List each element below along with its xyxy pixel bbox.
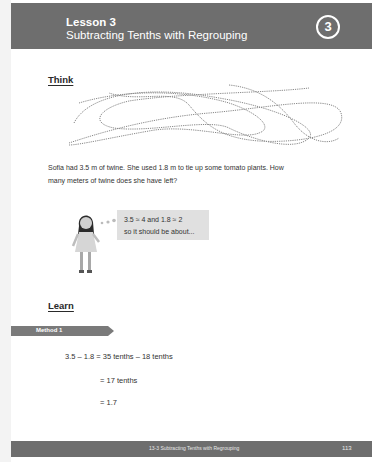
method-label: Method 1	[36, 327, 62, 333]
lesson-number: Lesson 3	[66, 16, 116, 28]
page-footer: 13-3 Subtracting Tenths with Regrouping …	[11, 441, 372, 457]
problem-line-1: Sofia had 3.5 m of twine. She used 1.8 m…	[48, 162, 348, 175]
equation-line-3: = 1.7	[100, 398, 117, 407]
equation-line-1: 3.5 – 1.8 = 35 tenths – 18 tenths	[65, 352, 173, 361]
lesson-header: Lesson 3 Subtracting Tenths with Regroup…	[11, 3, 372, 49]
textbook-page: Lesson 3 Subtracting Tenths with Regroup…	[11, 0, 372, 462]
problem-text: Sofia had 3.5 m of twine. She used 1.8 m…	[48, 162, 348, 187]
lesson-title: Subtracting Tenths with Regrouping	[66, 29, 247, 41]
method-tag: Method 1	[11, 326, 114, 336]
page-number: 113	[342, 445, 352, 451]
bubble-line-2: so it should be about...	[124, 226, 209, 238]
thought-bubble: 3.5 ≈ 4 and 1.8 ≈ 2 so it should be abou…	[117, 210, 209, 240]
footer-title: 13-3 Subtracting Tenths with Regrouping	[149, 445, 239, 451]
twine-icon	[69, 83, 344, 163]
problem-line-2: many meters of twine does she have left?	[48, 175, 348, 188]
bubble-line-1: 3.5 ≈ 4 and 1.8 ≈ 2	[124, 214, 209, 226]
lesson-badge: 3	[316, 15, 340, 39]
equation-line-2: = 17 tenths	[100, 376, 137, 385]
thought-dots-icon	[99, 218, 117, 226]
learn-heading: Learn	[48, 300, 74, 311]
method-tag-arrow	[108, 326, 114, 336]
